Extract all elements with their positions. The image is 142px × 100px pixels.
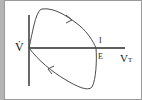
x-axis-label-subscript: T	[128, 56, 132, 64]
expiration-point-label: E	[98, 53, 103, 61]
y-axis-label: V̇	[15, 41, 24, 53]
arrow-upper-icon	[66, 15, 72, 23]
inspiration-point-label: I	[99, 37, 102, 45]
x-axis-label: VT	[120, 53, 132, 64]
loop-curve	[29, 9, 96, 89]
x-axis-label-main: V	[120, 52, 128, 64]
